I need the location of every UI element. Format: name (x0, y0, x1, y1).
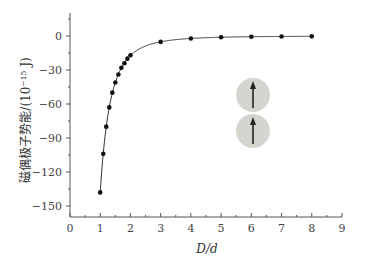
dipole-sphere-bottom (236, 114, 270, 148)
x-tick-label: 4 (187, 222, 194, 235)
y-axis-title: 磁偶极子势能/(10⁻¹⁵ J) (18, 57, 33, 182)
data-point (98, 190, 103, 195)
data-point (309, 34, 314, 39)
x-tick-label: 3 (157, 222, 164, 235)
x-axis: 0123456789 (67, 213, 346, 235)
y-axis: 0−30−60−90−120−150 (32, 13, 70, 217)
x-tick-label: 8 (308, 222, 315, 235)
data-point (122, 61, 127, 66)
x-tick-label: 9 (339, 222, 346, 235)
x-tick-label: 2 (127, 222, 134, 235)
data-series (98, 34, 314, 195)
y-tick-label: 0 (55, 30, 62, 43)
x-tick-label: 6 (248, 222, 255, 235)
x-tick-label: 5 (218, 222, 225, 235)
data-point (107, 105, 112, 110)
y-tick-label: −30 (39, 64, 62, 77)
data-point (279, 34, 284, 39)
x-tick-label: 7 (278, 222, 285, 235)
data-point (219, 35, 224, 40)
y-tick-label: −90 (39, 132, 62, 145)
dipole-sphere-top (236, 78, 270, 112)
inset-dipoles (236, 78, 270, 148)
data-point (101, 152, 106, 157)
y-tick-label: −150 (32, 200, 62, 213)
data-point (128, 53, 133, 58)
data-point (104, 124, 109, 129)
y-tick-label: −120 (32, 166, 62, 179)
data-point (116, 72, 121, 77)
data-point (113, 80, 118, 85)
data-point (249, 34, 254, 39)
data-point (189, 36, 194, 41)
dipole-energy-chart: 0−30−60−90−120−150 0123456789 磁偶极子势能/(10… (0, 0, 366, 274)
data-point (158, 40, 163, 45)
x-axis-title: D/d (195, 242, 218, 256)
data-point (119, 65, 124, 70)
data-point (110, 90, 115, 95)
y-tick-label: −60 (39, 98, 62, 111)
x-tick-label: 0 (67, 222, 74, 235)
fit-curve (100, 36, 312, 192)
x-tick-label: 1 (97, 222, 104, 235)
